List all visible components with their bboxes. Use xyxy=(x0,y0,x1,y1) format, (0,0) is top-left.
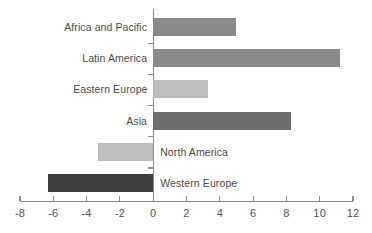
x-axis-tick-label: 0 xyxy=(150,207,156,219)
x-axis-tick-label: -6 xyxy=(48,207,58,219)
y-axis-tick xyxy=(148,43,153,44)
category-label: Africa and Pacific xyxy=(64,21,147,33)
y-axis-tick xyxy=(148,74,153,75)
y-axis-tick xyxy=(148,105,153,106)
bar xyxy=(153,112,291,130)
x-axis-tick xyxy=(86,196,87,201)
plot-area: -8-6-4-2024681012Africa and PacificLatin… xyxy=(0,0,372,233)
x-axis-tick xyxy=(253,196,254,201)
x-axis-tick-label: 8 xyxy=(283,207,289,219)
y-axis-tick xyxy=(148,167,153,168)
horizontal-bar-chart: -8-6-4-2024681012Africa and PacificLatin… xyxy=(0,0,372,233)
x-axis-tick xyxy=(286,196,287,201)
x-axis-tick-label: -2 xyxy=(115,207,125,219)
category-label: Western Europe xyxy=(160,177,237,189)
x-axis-tick-label: 4 xyxy=(217,207,223,219)
x-axis-tick-label: -8 xyxy=(15,207,25,219)
category-label: North America xyxy=(160,146,228,158)
bar xyxy=(98,143,153,161)
x-axis-tick xyxy=(352,196,353,201)
x-axis-line xyxy=(20,201,353,202)
x-axis-tick xyxy=(53,196,54,201)
x-axis-tick-label: 12 xyxy=(347,207,360,219)
x-axis-tick-label: -4 xyxy=(82,207,92,219)
x-axis-tick xyxy=(219,196,220,201)
x-axis-tick-label: 2 xyxy=(183,207,189,219)
bar xyxy=(48,174,153,192)
y-axis-tick xyxy=(148,136,153,137)
x-axis-tick xyxy=(153,196,154,201)
bar xyxy=(153,49,339,67)
bar xyxy=(153,80,208,98)
bar xyxy=(153,18,236,36)
category-label: Latin America xyxy=(82,52,147,64)
x-axis-tick xyxy=(119,196,120,201)
category-label: Asia xyxy=(126,115,147,127)
x-axis-tick xyxy=(319,196,320,201)
x-axis-tick-label: 10 xyxy=(313,207,326,219)
x-axis-tick xyxy=(186,196,187,201)
x-axis-tick-label: 6 xyxy=(250,207,256,219)
x-axis-tick xyxy=(19,196,20,201)
category-label: Eastern Europe xyxy=(73,83,147,95)
